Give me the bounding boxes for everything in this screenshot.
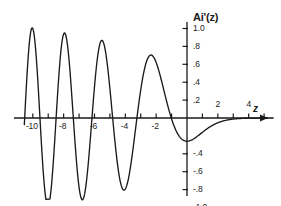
- airy-derivative-curve: [24, 28, 273, 200]
- y-tick-label: -.4: [193, 149, 203, 158]
- x-tick-label: -2: [152, 122, 159, 131]
- plot-canvas: [0, 0, 281, 206]
- y-axis-title: Ai'(z): [193, 12, 218, 23]
- y-tick-label: -.8: [193, 185, 203, 194]
- y-tick-label: -.6: [193, 167, 203, 176]
- x-tick-label: 2: [216, 100, 221, 109]
- airy-derivative-figure: 1.0.8.6.4.2-.4-.6-.8-1.0 -10-8-6-4-224 A…: [0, 0, 281, 206]
- y-tick-label: .4: [193, 78, 200, 87]
- x-tick-label: -4: [121, 122, 128, 131]
- x-tick-label: -8: [59, 122, 66, 131]
- x-axis-ticks: [33, 114, 264, 119]
- y-tick-label: -1.0: [193, 203, 207, 206]
- y-tick-label: .6: [193, 60, 200, 69]
- x-tick-label: -10: [26, 122, 38, 131]
- y-tick-label: 1.0: [193, 24, 205, 33]
- x-tick-label: 4: [246, 100, 251, 109]
- y-tick-label: .8: [193, 42, 200, 51]
- x-tick-label: -6: [90, 122, 97, 131]
- x-axis-title: z: [253, 104, 258, 114]
- y-tick-label: .2: [193, 96, 200, 105]
